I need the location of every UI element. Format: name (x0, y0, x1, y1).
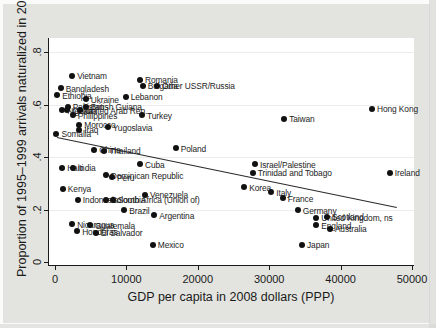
x-axis-title: GDP per capita in 2008 dollars (PPP) (48, 290, 414, 304)
x-tick-label: 20000 (183, 273, 214, 285)
data-point (83, 96, 89, 102)
data-point (252, 161, 258, 167)
y-tick (44, 52, 48, 53)
data-point (93, 230, 99, 236)
point-label: Mexico (158, 240, 184, 250)
x-tick (412, 265, 413, 270)
point-label: Hong Kong (377, 104, 418, 114)
data-point (327, 226, 333, 232)
y-tick-label: 0 (31, 259, 43, 265)
data-point (110, 197, 116, 203)
point-label: Peru (117, 173, 134, 183)
data-point (295, 207, 301, 213)
data-point (70, 112, 76, 118)
data-point (103, 172, 109, 178)
x-tick-label: 50000 (397, 273, 428, 285)
point-label: Poland (181, 144, 206, 154)
x-tick (198, 265, 199, 270)
data-point (150, 242, 156, 248)
point-label: Trinidad and Tobago (258, 168, 332, 178)
point-label: Japan (307, 240, 329, 250)
data-point (280, 195, 286, 201)
y-tick (44, 105, 48, 106)
point-label: Yugoslavia (113, 123, 153, 133)
data-point (60, 186, 66, 192)
x-tick (126, 265, 127, 270)
data-point (70, 165, 76, 171)
y-tick-label: .4 (31, 153, 43, 162)
y-gridline (48, 52, 414, 53)
point-label: Cuba (145, 160, 165, 170)
scatter-plot-figure: Proportion of 1995–1999 arrivals natural… (0, 0, 436, 328)
x-tick (341, 265, 342, 270)
x-tick (269, 265, 270, 270)
data-point (142, 192, 148, 198)
data-point (75, 197, 81, 203)
scan-shadow-bottom (0, 324, 436, 328)
data-point (103, 197, 109, 203)
point-label: Kenya (68, 184, 91, 194)
point-label: Ireland (395, 168, 420, 178)
x-tick (55, 265, 56, 270)
point-label: Australia (335, 224, 367, 234)
point-label: Venezuela (150, 190, 188, 200)
y-tick (44, 157, 48, 158)
point-label: India (78, 163, 96, 173)
y-gridline (48, 210, 414, 211)
data-point (369, 106, 375, 112)
point-label: El Salvador (101, 228, 143, 238)
x-tick-label: 0 (52, 273, 58, 285)
point-label: Philippines (78, 111, 117, 121)
point-label: Turkey (147, 111, 172, 121)
y-axis-title: Proportion of 1995–1999 arrivals natural… (15, 41, 29, 277)
point-label: Lebanon (131, 92, 163, 102)
point-label: Somalia (61, 129, 91, 139)
point-label: Taiwan (289, 114, 314, 124)
y-tick (44, 262, 48, 263)
point-label: Brazil (129, 206, 149, 216)
point-label: France (288, 194, 313, 204)
y-axis-line (48, 38, 49, 265)
y-tick-label: .8 (31, 48, 43, 57)
data-point (123, 94, 129, 100)
data-point (324, 214, 330, 220)
point-label: Other USSR/Russia (162, 81, 235, 91)
y-tick-label: .2 (31, 205, 43, 214)
y-tick-label: .6 (31, 100, 43, 109)
point-label: Thailand (109, 146, 140, 156)
y-tick (44, 210, 48, 211)
scan-shadow-right (429, 0, 436, 328)
data-point (137, 161, 143, 167)
data-point (173, 145, 179, 151)
x-axis-line (48, 265, 414, 266)
x-tick-label: 30000 (254, 273, 285, 285)
data-point (140, 83, 146, 89)
x-tick-label: 40000 (325, 273, 356, 285)
point-label: Vietnam (77, 71, 107, 81)
data-point (154, 83, 160, 89)
y-gridline (48, 157, 414, 158)
point-label: Argentina (159, 211, 194, 221)
graph-background: Proportion of 1995–1999 arrivals natural… (3, 4, 430, 323)
data-point (299, 242, 305, 248)
x-tick-label: 10000 (111, 273, 142, 285)
data-point (387, 170, 393, 176)
data-point (105, 124, 111, 130)
data-point (250, 170, 256, 176)
